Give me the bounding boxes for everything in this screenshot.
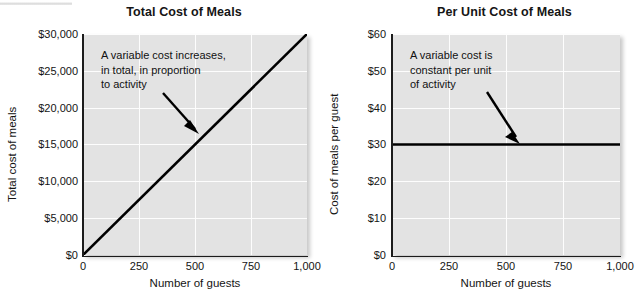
x-tick-label: 0 — [63, 261, 103, 272]
x-tick-label: 1,000 — [600, 261, 640, 272]
x-tick-label: 1,000 — [287, 261, 327, 272]
x-tick-label: 500 — [175, 261, 215, 272]
y-tick-label: $15,000 — [8, 139, 78, 150]
x-tick-label: 500 — [486, 261, 526, 272]
y-axis-line-left — [82, 34, 84, 257]
y-axis-line-right — [391, 34, 393, 257]
figure-variable-cost-charts: Total Cost of Meals $30,00 — [0, 0, 643, 299]
x-axis-title-left: Number of guests — [83, 277, 307, 289]
annotation-line: A variable cost is — [410, 48, 493, 63]
chart-title-per-unit-cost: Per Unit Cost of Meals — [330, 5, 643, 19]
annotation-text-right: A variable cost is constant per unit of … — [410, 48, 493, 92]
y-tick-label: $25,000 — [8, 66, 78, 77]
y-tick-label: $30,000 — [8, 29, 78, 40]
chart-panel-total-cost-of-meals: Total Cost of Meals $30,00 — [0, 0, 330, 299]
y-tick-label: $10,000 — [8, 176, 78, 187]
annotation-arrow-head — [184, 120, 199, 134]
y-tick-label: $20,000 — [8, 103, 78, 114]
annotation-line: of activity — [410, 77, 493, 92]
chart-panel-per-unit-cost-of-meals: Per Unit Cost of Meals $60 $50 $40 $3 — [330, 0, 643, 299]
y-axis-title-left: Total cost of meals — [6, 107, 18, 202]
x-tick-label: 750 — [543, 261, 583, 272]
y-tick-label: $5,000 — [8, 213, 78, 224]
annotation-text-left: A variable cost increases, in total, in … — [101, 48, 226, 92]
y-tick-label: $0 — [8, 250, 78, 261]
annotation-arrow-shaft — [487, 92, 516, 137]
y-tick-label: $50 — [330, 66, 386, 77]
x-tick-label: 250 — [429, 261, 469, 272]
x-axis-line-right — [391, 256, 621, 258]
y-tick-label: $0 — [330, 250, 386, 261]
x-axis-title-right: Number of guests — [392, 277, 620, 289]
x-tick-label: 250 — [119, 261, 159, 272]
x-axis-line-left — [82, 256, 308, 258]
y-tick-label: $60 — [330, 29, 386, 40]
annotation-line: constant per unit — [410, 63, 493, 78]
annotation-line: in total, in proportion — [101, 63, 226, 78]
annotation-arrow-head — [505, 132, 520, 144]
annotation-line: to activity — [101, 77, 226, 92]
x-tick-label: 750 — [231, 261, 271, 272]
x-tick-label: 0 — [372, 261, 412, 272]
annotation-line: A variable cost increases, — [101, 48, 226, 63]
y-axis-title-right: Cost of meals per guest — [328, 94, 340, 215]
chart-title-total-cost: Total Cost of Meals — [0, 5, 330, 19]
